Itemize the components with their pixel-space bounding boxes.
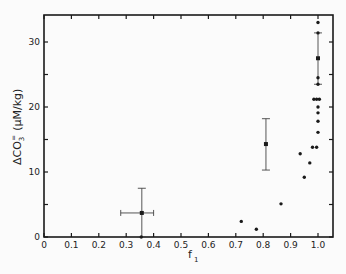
data-point: [316, 31, 319, 34]
y-tick-label: 0: [34, 232, 40, 242]
x-axis-title-main: f: [188, 248, 193, 261]
data-point: [315, 146, 318, 149]
x-axis-ticks: 00.10.20.30.40.50.60.70.80.91.0: [41, 15, 325, 250]
x-tick-label: 0.8: [256, 240, 271, 250]
x-tick-label: 0.4: [146, 240, 161, 250]
y-tick-label: 30: [29, 37, 41, 47]
data-point: [279, 202, 282, 205]
mean-marker: [140, 211, 144, 215]
x-tick-label: 0.5: [174, 240, 188, 250]
data-point: [316, 76, 319, 79]
data-point: [255, 228, 258, 231]
mean-marker: [316, 56, 320, 60]
x-tick-label: 0.1: [64, 240, 78, 250]
x-tick-label: 0.7: [229, 240, 243, 250]
error-bars: [121, 33, 322, 237]
x-tick-label: 0.3: [119, 240, 133, 250]
x-tick-label: 0.6: [201, 240, 216, 250]
scatter-chart: 00.10.20.30.40.50.60.70.80.91.0 0102030 …: [0, 0, 346, 274]
y-axis-title-units: (μM/kg): [11, 89, 24, 131]
data-point: [240, 220, 243, 223]
y-axis-title: ΔCO3=(μM/kg): [10, 89, 26, 165]
data-point: [298, 152, 301, 155]
data-point: [316, 105, 319, 108]
svg-text:ΔCO3=(μM/kg): ΔCO3=(μM/kg): [10, 89, 26, 165]
data-point: [316, 21, 319, 24]
plot-frame: [44, 15, 333, 237]
data-point: [140, 235, 143, 238]
y-axis-title-main: ΔCO: [11, 141, 24, 165]
x-tick-label: 0.9: [283, 240, 298, 250]
data-point: [303, 176, 306, 179]
data-point: [316, 131, 319, 134]
x-tick-label: 0.2: [92, 240, 106, 250]
y-axis-title-sub: 3: [18, 137, 26, 141]
x-tick-label: 1.0: [311, 240, 326, 250]
plot-border: [44, 15, 333, 237]
data-point: [316, 111, 319, 114]
y-tick-label: 20: [29, 102, 41, 112]
x-axis-title-sub: 1: [194, 256, 198, 264]
mean-marker: [264, 142, 268, 146]
y-axis-ticks: 0102030: [29, 37, 333, 242]
y-tick-label: 10: [29, 167, 41, 177]
x-axis-title: f 1: [188, 248, 198, 264]
data-point: [308, 161, 311, 164]
data-point: [318, 98, 321, 101]
data-points: [140, 21, 321, 239]
data-point: [316, 120, 319, 123]
x-tick-label: 0: [41, 240, 47, 250]
y-axis-title-sup: =: [10, 135, 18, 141]
data-point: [316, 83, 319, 86]
data-point: [311, 146, 314, 149]
